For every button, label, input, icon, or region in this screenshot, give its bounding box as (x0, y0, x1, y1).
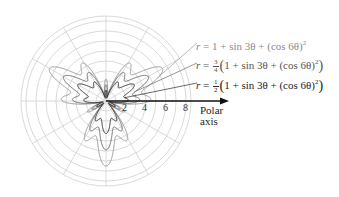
formula-body: 1 + sin 3θ + (cos 6θ) (224, 79, 315, 91)
formula-body: 1 + sin 3θ + (cos 6θ) (224, 59, 315, 71)
axis-label: Polar axis (200, 105, 223, 127)
fraction: 12 (213, 79, 219, 94)
legend-label-r2: r = 34(1 + sin 3θ + (cos 6θ)2) (196, 56, 323, 74)
equals: = (203, 40, 209, 52)
tick-label-4: 4 (142, 102, 147, 113)
r-symbol: r (196, 79, 200, 91)
fraction-denominator: 2 (213, 87, 219, 94)
close-paren: ) (318, 78, 323, 93)
r-symbol: r (196, 40, 200, 52)
fraction-denominator: 4 (213, 67, 219, 74)
grid-radial-line (32, 101, 106, 144)
tick-label-6: 6 (163, 102, 168, 113)
polar-chart (0, 0, 339, 197)
r-symbol: r (196, 59, 200, 71)
equals: = (203, 79, 209, 91)
close-paren: ) (318, 58, 323, 73)
tick-label-8: 8 (183, 102, 188, 113)
axis-label-line2: axis (200, 116, 223, 127)
fraction: 34 (213, 59, 219, 74)
label-leader-lines (125, 43, 197, 98)
formula-body: 1 + sin 3θ + (cos 6θ) (212, 40, 303, 52)
legend-label-r3: r = 12(1 + sin 3θ + (cos 6θ)2) (196, 76, 323, 94)
legend-label-r1: r = 1 + sin 3θ + (cos 6θ)2 (196, 37, 306, 52)
tick-label-2: 2 (122, 102, 127, 113)
exponent: 2 (303, 39, 307, 47)
equals: = (203, 59, 209, 71)
leader-line-1 (159, 43, 197, 76)
